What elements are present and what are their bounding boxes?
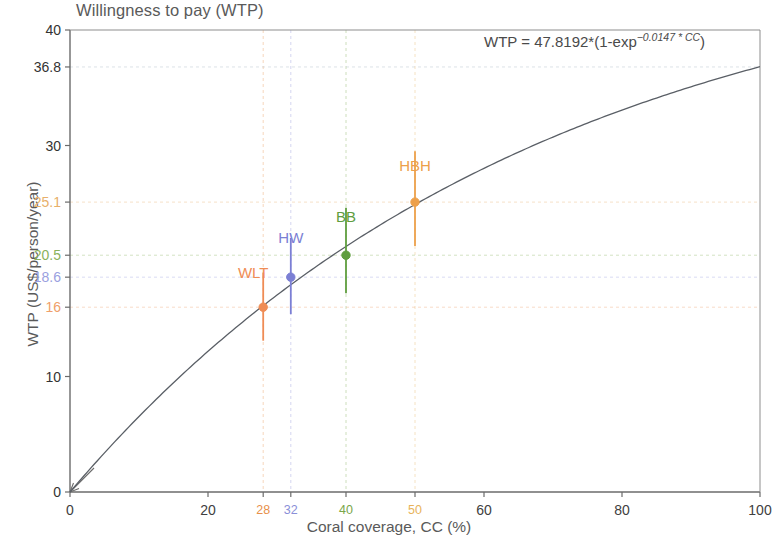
plot-area [0,0,778,543]
data-markers [259,198,419,312]
error-bars [263,151,415,340]
tick-marks [65,30,760,497]
chart-figure: Willingness to pay (WTP) WTP = 47.8192*(… [0,0,778,543]
gridlines [70,30,760,492]
